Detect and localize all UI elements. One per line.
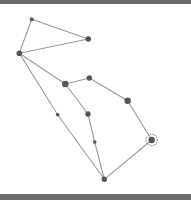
star-K — [102, 177, 107, 182]
constellation-line-H-K — [58, 115, 105, 180]
constellation-line-I-J — [88, 114, 95, 142]
star-E — [87, 75, 92, 80]
constellation-line-J-K — [95, 142, 105, 179]
bottom-border-band — [0, 194, 191, 200]
constellation-stars — [17, 17, 158, 182]
constellation-line-A-B — [32, 19, 89, 39]
constellation-line-E-F — [89, 78, 127, 101]
star-D — [62, 81, 69, 88]
constellation-line-F-G — [128, 101, 152, 140]
star-I — [85, 111, 90, 116]
star-G — [149, 137, 155, 143]
constellation-line-C-D — [19, 53, 65, 84]
constellation-diagram — [0, 0, 191, 200]
star-H — [56, 113, 60, 117]
star-B — [86, 36, 92, 42]
star-C — [17, 51, 23, 57]
star-A — [30, 17, 34, 21]
constellation-line-A-C — [19, 19, 31, 53]
constellation-line-D-I — [65, 84, 88, 114]
constellation-line-G-K — [104, 140, 151, 179]
constellation-line-C-H — [19, 53, 57, 114]
constellation-lines — [19, 19, 151, 179]
constellation-line-B-C — [19, 39, 88, 53]
star-F — [125, 98, 131, 104]
star-J — [93, 140, 97, 144]
constellation-line-D-E — [65, 78, 89, 84]
